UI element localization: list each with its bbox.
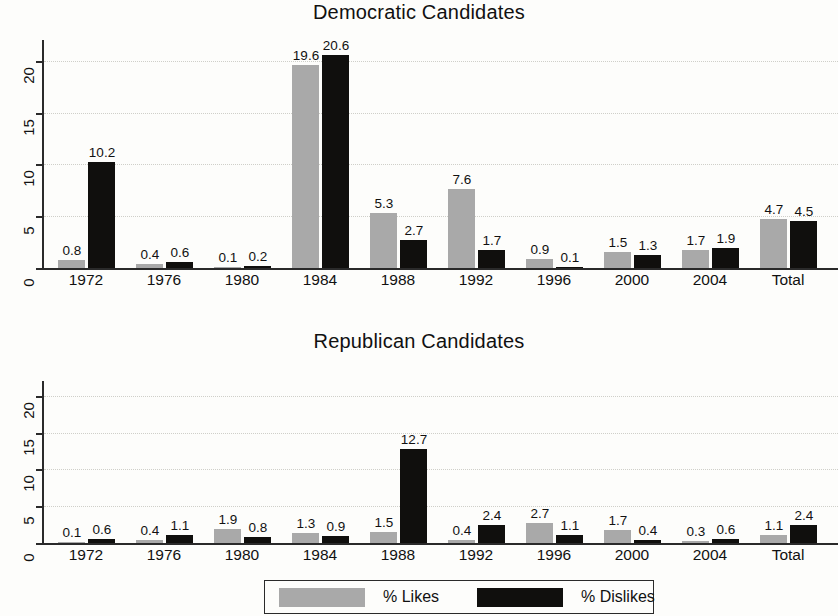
bar-value-label: 0.6 — [708, 522, 744, 537]
bar-value-label: 5.3 — [366, 196, 402, 211]
legend-swatch-dislikes — [477, 588, 563, 607]
bar-dislikes — [166, 535, 193, 543]
bar-dislikes — [712, 248, 739, 268]
y-axis-label: 15 — [20, 112, 37, 142]
x-axis-label: 2004 — [665, 546, 755, 564]
plot-area-democratic: 0.810.20.40.60.10.219.620.65.32.77.61.70… — [42, 40, 838, 270]
x-axis-label: 1980 — [197, 271, 287, 289]
x-axis-label: 1996 — [509, 271, 599, 289]
bar-likes — [58, 542, 85, 544]
x-axis-label: 2000 — [587, 271, 677, 289]
bar-likes — [604, 252, 631, 268]
bar-dislikes — [322, 536, 349, 543]
x-axis-label: 2004 — [665, 271, 755, 289]
bar-dislikes — [556, 535, 583, 543]
x-axis-label: 1972 — [41, 546, 131, 564]
bar-group: 4.74.5 — [760, 40, 820, 268]
bar-value-label: 4.5 — [786, 204, 822, 219]
bar-likes — [136, 264, 163, 268]
chart-legend: % Likes % Dislikes — [264, 580, 654, 614]
bar-dislikes — [400, 240, 427, 268]
bar-group: 0.810.2 — [58, 40, 118, 268]
y-axis-tick — [36, 543, 44, 545]
legend-swatch-likes — [279, 588, 365, 607]
bar-value-label: 7.6 — [444, 172, 480, 187]
bar-likes — [136, 540, 163, 543]
bar-value-label: 0.4 — [444, 523, 480, 538]
x-axis-label: 1976 — [119, 271, 209, 289]
legend-label-likes: % Likes — [383, 588, 439, 606]
bar-likes — [292, 533, 319, 543]
bar-value-label: 12.7 — [396, 432, 432, 447]
bar-value-label: 1.3 — [630, 238, 666, 253]
bar-value-label: 0.2 — [240, 249, 276, 264]
y-axis-label: 0 — [20, 543, 37, 573]
bar-likes — [292, 65, 319, 268]
plot-area-republican: 0.10.60.41.11.90.81.30.91.512.70.42.42.7… — [42, 381, 838, 545]
bar-value-label: 1.7 — [474, 233, 510, 248]
bar-group: 0.42.4 — [448, 381, 508, 543]
bar-dislikes — [244, 537, 271, 543]
bar-group: 0.30.6 — [682, 381, 742, 543]
bar-group: 5.32.7 — [370, 40, 430, 268]
bar-value-label: 10.2 — [84, 145, 120, 160]
bar-likes — [526, 523, 553, 543]
x-axis-label: 1996 — [509, 546, 599, 564]
bar-likes — [526, 259, 553, 268]
bar-group: 1.71.9 — [682, 40, 742, 268]
x-axis-label: 1988 — [353, 546, 443, 564]
y-axis-label: 15 — [20, 432, 37, 462]
republican-chart-panel: Republican Candidates 0.10.60.41.11.90.8… — [0, 308, 838, 548]
x-axis-label: 1984 — [275, 546, 365, 564]
y-axis-label: 5 — [20, 216, 37, 246]
bar-dislikes — [88, 539, 115, 543]
bar-likes — [604, 530, 631, 543]
x-axis-label: 1980 — [197, 546, 287, 564]
legend-label-dislikes: % Dislikes — [581, 588, 655, 606]
bar-group: 1.70.4 — [604, 381, 664, 543]
bar-value-label: 0.9 — [318, 519, 354, 534]
x-axis-label: 2000 — [587, 546, 677, 564]
y-axis-tick — [36, 396, 44, 398]
bar-value-label: 0.8 — [54, 243, 90, 258]
x-axis-label: 1984 — [275, 271, 365, 289]
bar-group: 0.41.1 — [136, 381, 196, 543]
bar-group: 0.10.6 — [58, 381, 118, 543]
x-axis-label: 1992 — [431, 546, 521, 564]
y-axis-tick — [36, 164, 44, 166]
y-axis-label: 10 — [20, 469, 37, 499]
bar-group: 1.12.4 — [760, 381, 820, 543]
bar-value-label: 0.8 — [240, 520, 276, 535]
bar-likes — [448, 189, 475, 268]
bar-likes — [760, 219, 787, 268]
bar-likes — [214, 529, 241, 543]
y-axis-tick — [36, 506, 44, 508]
bar-dislikes — [478, 250, 505, 268]
bar-value-label: 20.6 — [318, 38, 354, 53]
y-axis-tick — [36, 433, 44, 435]
bar-group: 1.512.7 — [370, 381, 430, 543]
y-axis-label: 20 — [20, 60, 37, 90]
bar-group: 1.90.8 — [214, 381, 274, 543]
bar-likes — [370, 532, 397, 543]
y-axis-tick — [36, 216, 44, 218]
y-axis-tick — [36, 113, 44, 115]
bar-value-label: 1.1 — [552, 518, 588, 533]
y-axis-label: 0 — [20, 268, 37, 298]
bar-group: 0.90.1 — [526, 40, 586, 268]
bar-group: 1.51.3 — [604, 40, 664, 268]
democratic-chart-panel: Democratic Candidates 0.810.20.40.60.10.… — [0, 0, 838, 308]
bar-likes — [370, 213, 397, 268]
bar-dislikes — [244, 266, 271, 268]
bar-likes — [760, 535, 787, 543]
bar-value-label: 0.1 — [552, 250, 588, 265]
bar-value-label: 0.6 — [162, 245, 198, 260]
x-axis-label: 1988 — [353, 271, 443, 289]
y-axis-label: 10 — [20, 164, 37, 194]
x-axis-label: 1976 — [119, 546, 209, 564]
bar-value-label: 2.4 — [474, 508, 510, 523]
y-axis-label: 20 — [20, 395, 37, 425]
x-axis-label: 1972 — [41, 271, 131, 289]
y-axis-label: 5 — [20, 506, 37, 536]
bar-dislikes — [634, 540, 661, 543]
